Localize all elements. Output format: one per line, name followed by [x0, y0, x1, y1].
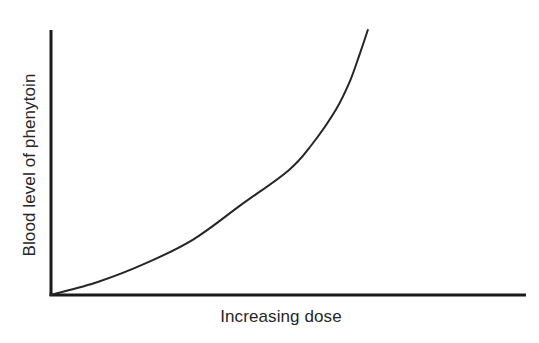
y-axis-label: Blood level of phenytoin — [20, 74, 40, 257]
x-axis-label: Increasing dose — [0, 307, 539, 327]
chart: Blood level of phenytoin Increasing dose — [0, 0, 539, 343]
plot-area — [0, 0, 539, 343]
dose-response-curve — [51, 30, 368, 295]
